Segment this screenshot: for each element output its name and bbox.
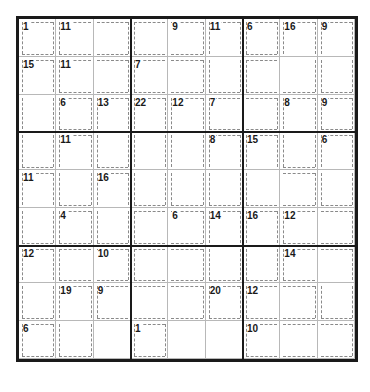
cage-border	[53, 211, 54, 243]
grid-cell-r3c6[interactable]: 7	[206, 95, 243, 133]
grid-cell-r5c4[interactable]	[131, 170, 168, 208]
cage-sum-label: 15	[247, 135, 259, 145]
grid-cell-r2c2[interactable]: 11	[56, 57, 93, 95]
grid-cell-r5c2[interactable]	[56, 170, 93, 208]
grid-cell-r7c4[interactable]	[131, 246, 168, 284]
grid-cell-r6c3[interactable]	[94, 208, 131, 246]
cage-border	[277, 22, 278, 54]
grid-cell-r8c6[interactable]: 20	[206, 283, 243, 321]
grid-cell-r8c8[interactable]	[280, 283, 317, 321]
grid-cell-r3c5[interactable]: 12	[168, 95, 205, 133]
grid-cell-r4c8[interactable]	[280, 132, 317, 170]
grid-cell-r4c5[interactable]	[168, 132, 205, 170]
grid-cell-r8c2[interactable]: 19	[56, 283, 93, 321]
grid-cell-r1c9[interactable]: 9	[318, 19, 355, 57]
grid-cell-r7c9[interactable]	[318, 246, 355, 284]
grid-cell-r4c9[interactable]: 6	[318, 132, 355, 170]
grid-cell-r5c3[interactable]: 16	[94, 170, 131, 208]
grid-cell-r3c2[interactable]: 6	[56, 95, 93, 133]
grid-cell-r5c1[interactable]: 11	[19, 170, 56, 208]
grid-cell-r5c9[interactable]	[318, 170, 355, 208]
grid-cell-r8c3[interactable]: 9	[94, 283, 131, 321]
grid-cell-r6c1[interactable]	[19, 208, 56, 246]
grid-cell-r2c6[interactable]	[206, 57, 243, 95]
grid-cell-r8c7[interactable]: 12	[243, 283, 280, 321]
grid-cell-r4c7[interactable]: 15	[243, 132, 280, 170]
grid-cell-r2c8[interactable]	[280, 57, 317, 95]
grid-cell-r1c7[interactable]: 6	[243, 19, 280, 57]
grid-cell-r4c2[interactable]: 11	[56, 132, 93, 170]
grid-cell-r7c6[interactable]	[206, 246, 243, 284]
cage-sum-label: 16	[247, 211, 259, 221]
cage-border	[165, 98, 166, 130]
grid-cell-r4c1[interactable]	[19, 132, 56, 170]
grid-cell-r6c9[interactable]	[318, 208, 355, 246]
grid-cell-r9c4[interactable]: 1	[131, 321, 168, 359]
cage-sum-label: 12	[284, 211, 296, 221]
grid-cell-r7c7[interactable]	[243, 246, 280, 284]
grid-cell-r9c7[interactable]: 10	[243, 321, 280, 359]
grid-cell-r4c4[interactable]	[131, 132, 168, 170]
grid-cell-r7c5[interactable]	[168, 246, 205, 284]
grid-cell-r9c3[interactable]	[94, 321, 131, 359]
grid-cell-r7c8[interactable]: 14	[280, 246, 317, 284]
grid-cell-r3c4[interactable]: 22	[131, 95, 168, 133]
grid-cell-r3c1[interactable]	[19, 95, 56, 133]
cage-border	[171, 249, 202, 250]
grid-cell-r4c6[interactable]: 8	[206, 132, 243, 170]
grid-cell-r5c8[interactable]	[280, 170, 317, 208]
grid-cell-r2c9[interactable]	[318, 57, 355, 95]
cage-border	[22, 167, 53, 168]
grid-cell-r9c2[interactable]	[56, 321, 93, 359]
grid-cell-r3c3[interactable]: 13	[94, 95, 131, 133]
grid-cell-r6c5[interactable]: 6	[168, 208, 205, 246]
grid-cell-r1c3[interactable]	[94, 19, 131, 57]
cage-border	[246, 205, 277, 206]
grid-cell-r9c9[interactable]	[318, 321, 355, 359]
grid-cell-r1c6[interactable]: 11	[206, 19, 243, 57]
grid-cell-r4c3[interactable]	[94, 132, 131, 170]
cage-sum-label: 9	[98, 286, 105, 296]
grid-cell-r1c4[interactable]	[131, 19, 168, 57]
cage-border	[203, 286, 204, 318]
grid-cell-r2c1[interactable]: 15	[19, 57, 56, 95]
grid-cell-r6c7[interactable]: 16	[243, 208, 280, 246]
grid-cell-r3c9[interactable]: 9	[318, 95, 355, 133]
grid-cell-r8c1[interactable]	[19, 283, 56, 321]
grid-cell-r5c7[interactable]	[243, 170, 280, 208]
cage-border	[59, 54, 90, 55]
cage-border	[209, 92, 240, 93]
grid-cell-r5c6[interactable]	[206, 170, 243, 208]
grid-cell-r8c5[interactable]	[168, 283, 205, 321]
grid-cell-r9c8[interactable]	[280, 321, 317, 359]
cage-sum-label: 14	[284, 249, 296, 259]
grid-cell-r1c2[interactable]: 11	[56, 19, 93, 57]
grid-cell-r2c3[interactable]	[94, 57, 131, 95]
grid-cell-r2c5[interactable]	[168, 57, 205, 95]
grid-cell-r6c2[interactable]: 4	[56, 208, 93, 246]
grid-cell-r2c7[interactable]	[243, 57, 280, 95]
grid-cell-r8c9[interactable]	[318, 283, 355, 321]
cage-border	[283, 173, 314, 174]
grid-cell-r9c6[interactable]	[206, 321, 243, 359]
grid-cell-r6c4[interactable]	[131, 208, 168, 246]
cage-border	[97, 92, 128, 93]
cage-sum-label: 11	[60, 22, 72, 32]
grid-cell-r1c1[interactable]: 1	[19, 19, 56, 57]
grid-cell-r7c2[interactable]	[56, 246, 93, 284]
cage-border	[240, 135, 241, 167]
grid-cell-r7c3[interactable]: 10	[94, 246, 131, 284]
grid-cell-r7c1[interactable]: 12	[19, 246, 56, 284]
grid-cell-r3c8[interactable]: 8	[280, 95, 317, 133]
grid-cell-r3c7[interactable]	[243, 95, 280, 133]
grid-cell-r5c5[interactable]	[168, 170, 205, 208]
grid-cell-r1c8[interactable]: 16	[280, 19, 317, 57]
grid-cell-r9c1[interactable]: 6	[19, 321, 56, 359]
grid-cell-r2c4[interactable]: 7	[131, 57, 168, 95]
grid-cell-r6c8[interactable]: 12	[280, 208, 317, 246]
cage-border	[246, 60, 247, 92]
grid-cell-r9c5[interactable]	[168, 321, 205, 359]
grid-cell-r1c5[interactable]: 9	[168, 19, 205, 57]
grid-cell-r8c4[interactable]	[131, 283, 168, 321]
grid-cell-r6c6[interactable]: 14	[206, 208, 243, 246]
